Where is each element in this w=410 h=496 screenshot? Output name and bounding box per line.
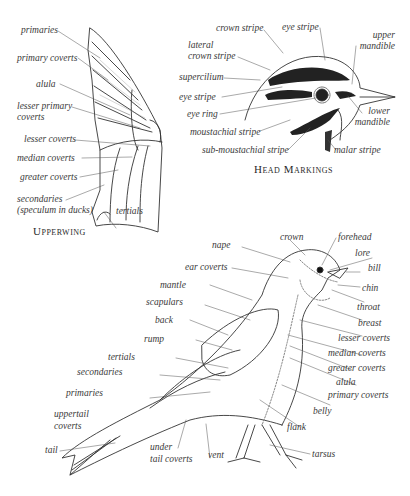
label-chin: chin [362, 283, 378, 294]
label-lesser-coverts: lesser coverts [24, 134, 76, 145]
label-sub-moustachial-stripe: sub-moustachial stripe [202, 145, 289, 156]
label-uppertail-coverts-1: uppertail [54, 409, 89, 420]
label-alula: alula [36, 79, 56, 90]
label-ear-coverts: ear coverts [185, 262, 227, 273]
label-greater-coverts: greater coverts [20, 172, 77, 183]
head-drawing [245, 56, 395, 152]
label-supercilium: supercilium [179, 72, 224, 83]
wing-drawing [88, 28, 162, 232]
label-tertials: tertials [108, 352, 135, 363]
label-crown: crown [280, 232, 303, 243]
label-primaries: primaries [21, 25, 58, 36]
label-back: back [155, 315, 173, 326]
label-greater-coverts: greater coverts [328, 363, 385, 374]
label-median-coverts: median coverts [328, 348, 386, 359]
label-primaries: primaries [66, 388, 103, 399]
label-crown-stripe: crown stripe [216, 23, 263, 34]
label-eye-ring: eye ring [187, 109, 218, 120]
label-forehead: forehead [338, 232, 371, 243]
label-lesser-primary-coverts-1: lesser primary [17, 101, 72, 112]
label-secondaries: secondaries [77, 367, 122, 378]
label-undertail-coverts-1: under [150, 442, 172, 453]
label-secondaries-2: (speculum in ducks) [17, 205, 93, 216]
label-lateral-crown-stripe-1: lateral [188, 40, 213, 51]
label-bill: bill [368, 263, 381, 274]
label-rump: rump [144, 334, 164, 345]
label-lateral-crown-stripe-2: crown stripe [188, 51, 235, 62]
label-lore: lore [355, 248, 370, 259]
label-mantle: mantle [160, 280, 186, 291]
label-throat: throat [357, 302, 380, 313]
label-alula: alula [336, 377, 356, 388]
label-eye-stripe-top: eye stripe [282, 22, 319, 33]
label-nape: nape [212, 240, 230, 251]
label-primary-coverts: primary coverts [328, 390, 388, 401]
bird-drawing [62, 250, 348, 475]
label-moustachial-stripe: moustachial stripe [190, 127, 260, 138]
label-secondaries-1: secondaries [17, 194, 62, 205]
label-vent: vent [208, 450, 224, 461]
label-upper-mandible-1: upper [350, 30, 395, 41]
label-lower-mandible-2: mandible [340, 117, 390, 128]
label-upper-mandible-2: mandible [340, 41, 395, 52]
label-malar-stripe: malar stripe [334, 145, 381, 156]
label-lesser-coverts: lesser coverts [338, 333, 390, 344]
label-tertials-wing: tertials [116, 206, 143, 217]
label-eye-stripe: eye stripe [179, 92, 216, 103]
label-scapulars: scapulars [146, 297, 183, 308]
label-breast: breast [358, 318, 381, 329]
label-tarsus: tarsus [312, 449, 335, 460]
caption-head-markings: Head Markings [254, 163, 333, 175]
label-undertail-coverts-2: tail coverts [150, 454, 192, 465]
label-uppertail-coverts-2: coverts [54, 421, 81, 432]
label-flank: flank [287, 422, 306, 433]
label-tail: tail [45, 445, 58, 456]
label-primary-coverts: primary coverts [17, 53, 77, 64]
label-median-coverts: median coverts [17, 153, 75, 164]
label-belly: belly [313, 406, 331, 417]
label-lesser-primary-coverts-2: coverts [17, 112, 44, 123]
label-lower-mandible-1: lower [350, 106, 390, 117]
caption-upperwing: Upperwing [33, 225, 86, 237]
